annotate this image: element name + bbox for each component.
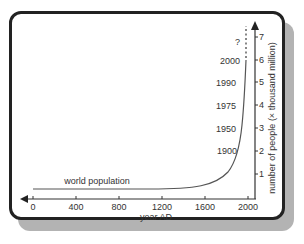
y-tick-label: 6 [259,55,264,65]
point-label-1975: 1975 [216,101,236,111]
y-tick-label: 7 [259,32,264,42]
x-tick-label: 0 [30,202,35,212]
x-tick-label: 2000 [238,202,258,212]
y-axis-arrow-icon [251,21,259,30]
x-tick-label: 400 [68,202,83,212]
y-tick-label: 1 [259,169,264,179]
x-tick-label: 800 [111,202,126,212]
y-axis-label: number of people (× thousand million) [267,42,277,193]
x-axis-label: year AD [140,212,173,222]
x-tick-label: 1600 [195,202,215,212]
point-label-2000: 2000 [220,56,240,66]
x-tick-label: 1200 [152,202,172,212]
point-label-1900: 1900 [217,146,237,156]
x-axis-arrow-icon [20,195,28,203]
series-label: world population [63,176,130,186]
y-tick-label: 5 [259,77,264,87]
y-tick-label: 4 [259,100,264,110]
population-curve [33,60,246,189]
y-tick-label: 3 [259,123,264,133]
point-label-1990: 1990 [216,78,236,88]
population-chart: 0 400 800 1200 1600 2000 year AD 1 2 3 4… [0,0,304,244]
point-label-question: ? [235,37,240,47]
point-label-1950: 1950 [216,124,236,134]
y-tick-label: 2 [259,146,264,156]
